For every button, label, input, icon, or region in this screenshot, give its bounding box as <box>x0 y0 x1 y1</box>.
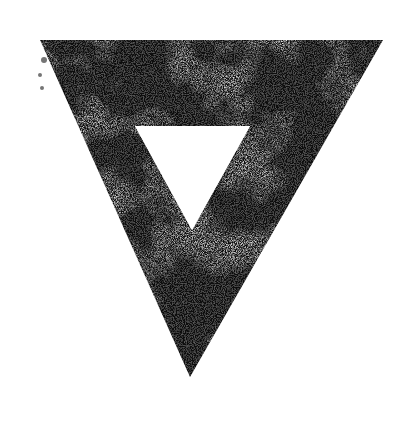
image-canvas: Grungy ink-stamped inverted triangle fra… <box>0 0 413 421</box>
triangle-stamp-graphic <box>0 0 413 421</box>
triangle-frame <box>0 0 413 421</box>
